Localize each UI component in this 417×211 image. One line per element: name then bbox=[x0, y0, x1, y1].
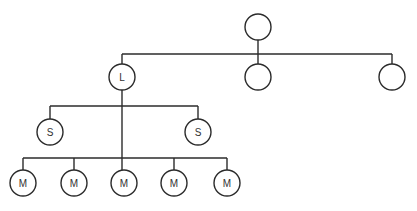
node-s2: S bbox=[185, 119, 211, 145]
tree-diagram: L S S M M M M M bbox=[0, 0, 417, 211]
node-m1: M bbox=[10, 170, 36, 196]
node-label: M bbox=[19, 178, 27, 189]
node-label: M bbox=[223, 178, 231, 189]
node-label: S bbox=[47, 127, 54, 138]
node-label: L bbox=[119, 72, 125, 83]
node-label: M bbox=[170, 178, 178, 189]
node-child-3 bbox=[379, 64, 405, 90]
edges-root bbox=[122, 40, 392, 64]
node-m4: M bbox=[161, 170, 187, 196]
edges-l-to-m bbox=[23, 158, 227, 170]
node-s1: S bbox=[37, 119, 63, 145]
node-label: M bbox=[70, 178, 78, 189]
node-label: S bbox=[195, 127, 202, 138]
node-label: M bbox=[120, 178, 128, 189]
node-l: L bbox=[109, 64, 135, 90]
node-m3: M bbox=[111, 170, 137, 196]
node-child-2 bbox=[245, 64, 271, 90]
node-m5: M bbox=[214, 170, 240, 196]
node-m2: M bbox=[61, 170, 87, 196]
node-root bbox=[245, 14, 271, 40]
